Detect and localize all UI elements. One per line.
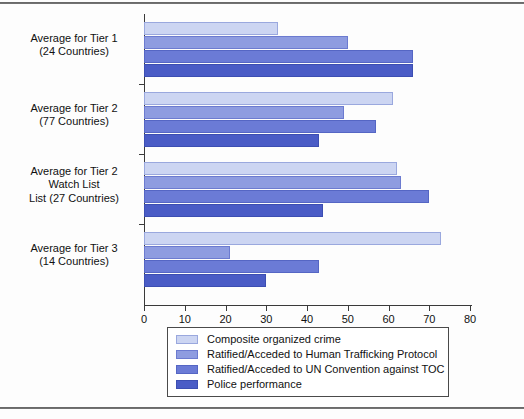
legend-label: Composite organized crime <box>207 333 341 346</box>
bar-group <box>144 88 470 158</box>
x-axis-tick <box>266 306 267 311</box>
x-axis-tick <box>389 306 390 311</box>
horizontal-bar-chart: Average for Tier 1(24 Countries)Average … <box>0 8 524 308</box>
legend-label: Police performance <box>207 378 302 391</box>
x-axis-tick <box>185 306 186 311</box>
category-label-line: Average for Tier 1 <box>10 32 138 46</box>
y-axis-tick <box>139 154 144 155</box>
legend-label: Ratified/Acceded to UN Convention agains… <box>207 363 444 376</box>
category-label-3: Average for Tier 3(14 Countries) <box>10 242 138 269</box>
x-axis-tick-label: 20 <box>206 313 246 325</box>
bar-series-1-group-1 <box>144 106 344 119</box>
x-axis-tick <box>470 306 471 311</box>
legend-swatch-icon <box>176 380 198 389</box>
bar-series-0-group-0 <box>144 22 278 35</box>
bar-group <box>144 228 470 298</box>
bar-series-1-group-2 <box>144 176 401 189</box>
bar-series-2-group-0 <box>144 50 413 63</box>
x-axis-tick <box>429 306 430 311</box>
y-axis-tick <box>139 224 144 225</box>
plot-area <box>144 14 470 306</box>
bar-group <box>144 158 470 228</box>
category-label-line: Watch List <box>10 178 138 192</box>
chart-page: Average for Tier 1(24 Countries)Average … <box>0 0 524 419</box>
legend-swatch-icon <box>176 350 198 359</box>
legend-swatch-icon <box>176 365 198 374</box>
x-axis-tick-label: 50 <box>328 313 368 325</box>
category-label-2: Average for Tier 2Watch ListList (27 Cou… <box>10 165 138 206</box>
bar-series-1-group-3 <box>144 246 230 259</box>
top-divider-rule <box>0 2 524 4</box>
category-label-line: Average for Tier 2 <box>10 102 138 116</box>
bar-series-2-group-2 <box>144 190 429 203</box>
category-label-line: Average for Tier 2 <box>10 165 138 179</box>
bar-series-3-group-1 <box>144 134 319 147</box>
bar-series-0-group-1 <box>144 92 393 105</box>
category-label-line: (77 Countries) <box>10 115 138 129</box>
category-label-line: List (27 Countries) <box>10 192 138 206</box>
bar-series-1-group-0 <box>144 36 348 49</box>
x-axis-tick <box>348 306 349 311</box>
bar-series-2-group-3 <box>144 260 319 273</box>
category-label-line: (14 Countries) <box>10 255 138 269</box>
category-label-line: (24 Countries) <box>10 45 138 59</box>
x-axis-tick-label: 30 <box>246 313 286 325</box>
x-axis-tick <box>144 306 145 311</box>
x-axis-tick-label: 10 <box>165 313 205 325</box>
bar-series-0-group-3 <box>144 232 441 245</box>
legend-item-1[interactable]: Ratified/Acceded to Human Trafficking Pr… <box>176 347 442 362</box>
y-axis-tick <box>139 84 144 85</box>
category-label-0: Average for Tier 1(24 Countries) <box>10 32 138 59</box>
legend-item-0[interactable]: Composite organized crime <box>176 332 442 347</box>
category-label-line: Average for Tier 3 <box>10 242 138 256</box>
legend-swatch-icon <box>176 335 198 344</box>
x-axis-tick-label: 60 <box>369 313 409 325</box>
x-axis-tick-label: 0 <box>124 313 164 325</box>
x-axis-tick <box>226 306 227 311</box>
legend-item-3[interactable]: Police performance <box>176 377 442 392</box>
x-axis-tick <box>307 306 308 311</box>
bar-group <box>144 18 470 88</box>
bar-series-3-group-0 <box>144 64 413 77</box>
legend-item-2[interactable]: Ratified/Acceded to UN Convention agains… <box>176 362 442 377</box>
bar-series-3-group-2 <box>144 204 323 217</box>
bar-series-2-group-1 <box>144 120 376 133</box>
bottom-divider-rule <box>0 407 524 409</box>
category-label-1: Average for Tier 2(77 Countries) <box>10 102 138 129</box>
x-axis-tick-label: 80 <box>450 313 490 325</box>
x-axis-tick-label: 40 <box>287 313 327 325</box>
chart-legend: Composite organized crimeRatified/Accede… <box>167 327 449 397</box>
bar-series-3-group-3 <box>144 274 266 287</box>
bar-series-0-group-2 <box>144 162 397 175</box>
x-axis-tick-label: 70 <box>409 313 449 325</box>
legend-label: Ratified/Acceded to Human Trafficking Pr… <box>207 348 437 361</box>
